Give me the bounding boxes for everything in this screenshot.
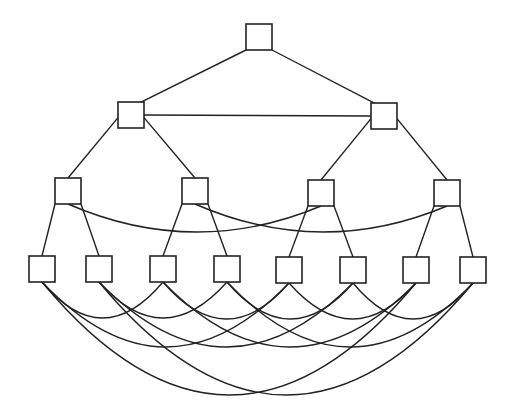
edge-n3b-n4d [208,204,227,256]
node-n3b [182,178,208,204]
node-n1 [246,24,272,50]
edge-n3a-n4a [42,204,55,256]
arc-n4d-n4h [227,282,473,347]
node-n4a [29,256,55,282]
arc-n4a-n4e [42,282,289,347]
arc-n3b-n3d [195,204,447,232]
edges-layer [42,50,473,395]
arc-n3a-n3c [68,204,321,232]
nodes-layer [29,24,486,283]
node-n4f [340,257,366,283]
node-n3c [308,180,334,206]
edge-n2a-n3b [144,118,195,178]
node-n2b [371,103,397,129]
node-n4h [460,257,486,283]
edge-n1-n2a [131,50,246,107]
node-n4e [276,257,302,283]
node-n3a [55,178,81,204]
edge-n1-n2b [272,50,384,108]
node-n4b [86,256,112,282]
edge-n3a-n4b [81,204,99,256]
arc-n4c-n4g [163,282,416,347]
network-diagram [0,0,518,420]
arc-n4b-n4h [99,282,473,395]
node-n4g [403,257,429,283]
arc-n4b-n4f [99,282,353,347]
edge-n2b-n3c [321,119,371,180]
node-n4c [150,256,176,282]
node-n2a [118,102,144,128]
edge-n2b-n3d [397,119,447,180]
edge-n2a-n2b [144,115,371,116]
edge-n3d-n4g [416,206,434,257]
edge-n2a-n3a [68,118,118,178]
node-n4d [214,256,240,282]
edge-n3d-n4h [460,206,473,257]
node-n3d [434,180,460,206]
